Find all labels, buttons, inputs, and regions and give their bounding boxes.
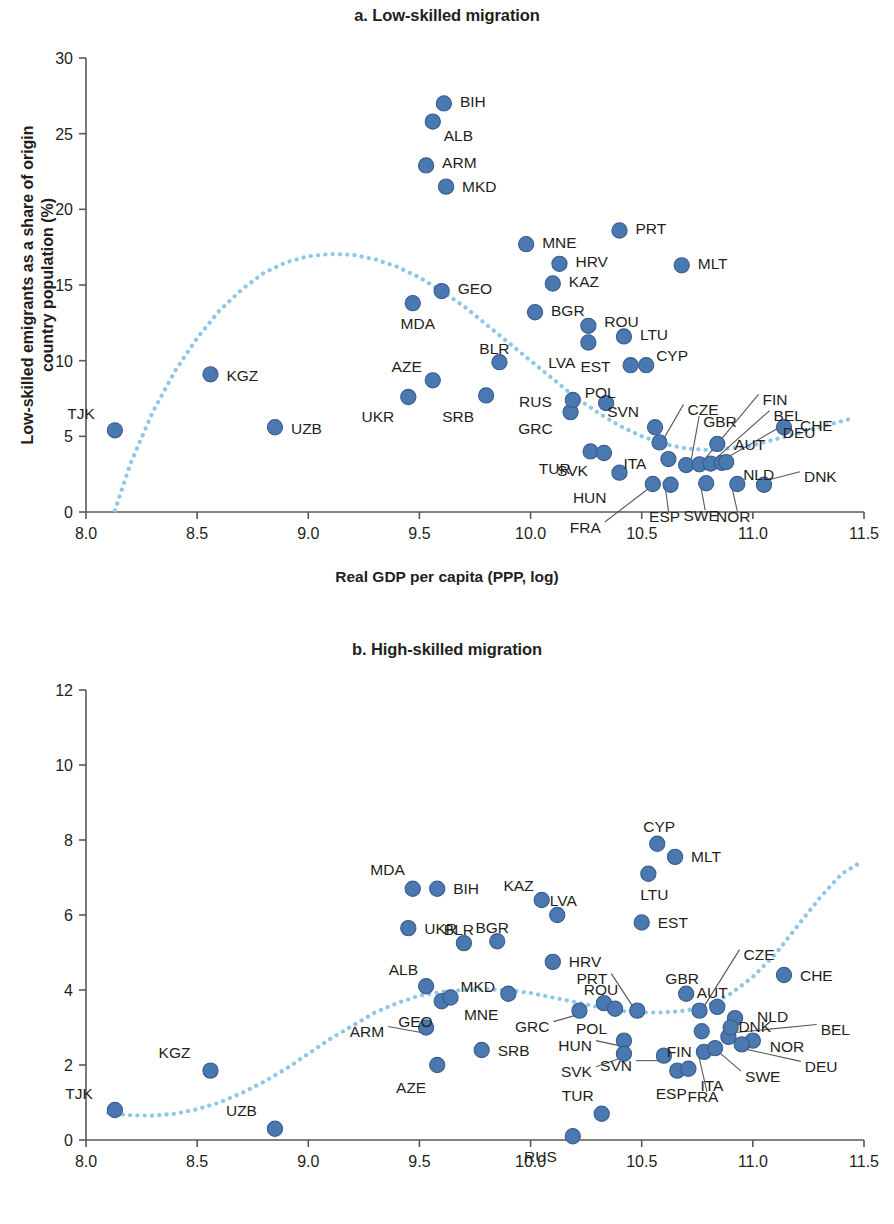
leader-line: [720, 1053, 741, 1071]
data-point-label: AUT: [697, 984, 729, 1001]
y-tick-label: 0: [64, 504, 73, 521]
data-point-label: KGZ: [226, 367, 258, 384]
data-point-marker: [479, 388, 494, 403]
data-point-marker: [434, 283, 449, 298]
data-point-label: POL: [576, 1020, 607, 1037]
data-point-label: DEU: [805, 1058, 838, 1075]
data-point-label: CYP: [656, 347, 688, 364]
data-point-marker: [723, 1020, 738, 1035]
y-tick-label: 12: [55, 682, 73, 699]
x-tick-label: 11.0: [738, 1153, 768, 1170]
panel-high-skilled: b. High-skilled migration High-skilled e…: [0, 600, 894, 1224]
data-point-marker: [612, 223, 627, 238]
data-point-marker: [527, 305, 542, 320]
data-point-marker: [583, 444, 598, 459]
data-point-label: ITA: [623, 455, 647, 472]
data-point-label: ALB: [389, 961, 418, 978]
data-point-marker: [419, 979, 434, 994]
y-tick-label: 0: [64, 1132, 73, 1149]
data-point-marker: [639, 358, 654, 373]
data-point-label: SVK: [561, 1063, 593, 1080]
data-point-marker: [550, 907, 565, 922]
data-point-label: SRB: [442, 408, 474, 425]
data-point-label: HUN: [558, 1037, 592, 1054]
data-point-marker: [405, 296, 420, 311]
data-point-marker: [456, 936, 471, 951]
data-point-label: AUT: [734, 436, 766, 453]
data-point-label: MKD: [462, 178, 496, 195]
data-point-label: MNE: [542, 234, 576, 251]
data-point-label: BEL: [821, 1021, 851, 1038]
data-point-marker: [425, 114, 440, 129]
y-tick-label: 25: [55, 126, 73, 143]
data-point-label: BIH: [460, 93, 486, 110]
data-point-label: AZE: [396, 1079, 426, 1096]
data-point-marker: [267, 420, 282, 435]
data-point-label: UZB: [291, 420, 322, 437]
data-point-marker: [581, 335, 596, 350]
data-point-label: RUS: [519, 393, 552, 410]
data-point-label: MLT: [698, 255, 728, 272]
leader-line: [596, 1041, 619, 1046]
y-tick-label: 2: [64, 1057, 73, 1074]
data-point-label: NOR: [716, 508, 750, 525]
data-point-label: SWE: [745, 1068, 780, 1085]
data-point-label: PRT: [635, 220, 666, 237]
x-tick-label: 9.0: [297, 525, 319, 542]
x-tick-label: 8.5: [186, 1153, 208, 1170]
data-point-marker: [630, 1003, 645, 1018]
data-point-label: LTU: [640, 326, 668, 343]
data-point-label: FIN: [763, 391, 788, 408]
y-tick-label: 8: [64, 832, 73, 849]
data-point-marker: [710, 436, 725, 451]
data-point-marker: [572, 1003, 587, 1018]
data-point-label: PRT: [577, 970, 608, 987]
data-point-label: ARM: [350, 1023, 384, 1040]
data-point-marker: [107, 423, 122, 438]
leader-line: [691, 416, 699, 460]
x-tick-label: 10.5: [626, 1153, 657, 1170]
data-point-label: TJK: [67, 405, 95, 422]
data-point-label: HRV: [569, 953, 602, 970]
y-ticks: 024681012: [55, 682, 86, 1149]
data-point-marker: [439, 179, 454, 194]
data-point-label: TUR: [562, 1087, 594, 1104]
data-point-marker: [694, 1024, 709, 1039]
x-tick-label: 9.5: [408, 525, 430, 542]
data-point-marker: [594, 1106, 609, 1121]
data-point-label: RUS: [524, 1148, 557, 1165]
data-point-marker: [641, 866, 656, 881]
data-point-label: NLD: [743, 466, 774, 483]
data-point-marker: [596, 445, 611, 460]
data-point-label: KGZ: [159, 1044, 191, 1061]
data-point-label: EST: [580, 358, 611, 375]
data-point-marker: [501, 986, 516, 1001]
data-point-label: ARM: [442, 154, 476, 171]
data-point-label: NLD: [757, 1008, 788, 1025]
data-point-marker: [623, 358, 638, 373]
data-point-marker: [661, 451, 676, 466]
data-point-marker: [545, 276, 560, 291]
data-point-marker: [679, 986, 694, 1001]
data-point-marker: [616, 329, 631, 344]
x-tick-label: 11.0: [738, 525, 768, 542]
leader-line: [553, 1016, 574, 1022]
data-point-label: LTU: [640, 886, 668, 903]
data-point-label: UKR: [362, 408, 395, 425]
panel-b-scatter-svg: 8.08.59.09.510.010.511.011.5024681012TJK…: [0, 600, 894, 1224]
y-tick-label: 5: [64, 428, 73, 445]
data-point-label: BIH: [453, 880, 479, 897]
data-point-label: MDA: [370, 861, 405, 878]
panel-low-skilled: a. Low-skilled migration Low-skilled emi…: [0, 0, 894, 600]
y-tick-label: 6: [64, 907, 73, 924]
data-point-label: ESP: [656, 1085, 687, 1102]
data-point-label: TJK: [65, 1085, 93, 1102]
data-point-label: GRC: [515, 1018, 549, 1035]
data-point-marker: [474, 1042, 489, 1057]
data-point-marker: [545, 954, 560, 969]
data-point-label: SVK: [557, 462, 589, 479]
data-point-marker: [430, 881, 445, 896]
data-point-label: GBR: [703, 413, 737, 430]
data-point-marker: [607, 1001, 622, 1016]
data-point-marker: [565, 392, 580, 407]
